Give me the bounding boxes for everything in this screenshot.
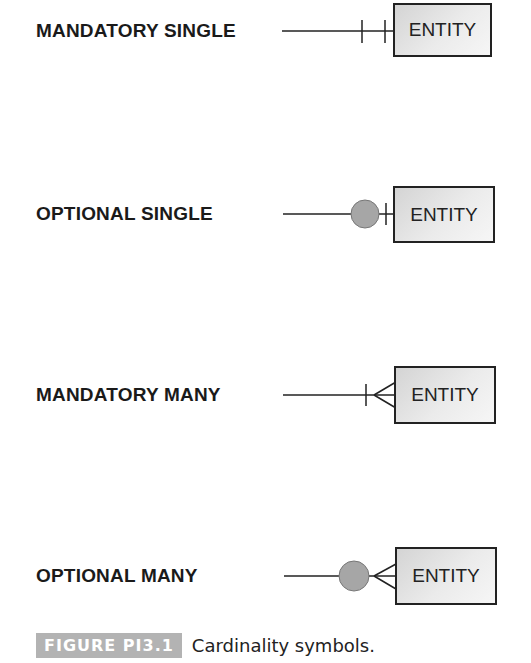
entity-box-optional-single: ENTITY bbox=[393, 186, 495, 243]
mandatory-many-icon bbox=[283, 382, 396, 408]
entity-box-optional-many: ENTITY bbox=[395, 547, 497, 605]
optional-single-icon bbox=[283, 200, 394, 228]
figure-caption: FIGURE PI3.1 Cardinality symbols. bbox=[36, 633, 375, 658]
label-optional-many: OPTIONAL MANY bbox=[36, 565, 198, 587]
mandatory-single-icon bbox=[282, 20, 394, 43]
entity-box-mandatory-single: ENTITY bbox=[393, 3, 492, 57]
figure-label-badge: FIGURE PI3.1 bbox=[36, 633, 182, 658]
figure-caption-text: Cardinality symbols. bbox=[192, 635, 375, 656]
label-optional-single: OPTIONAL SINGLE bbox=[36, 203, 213, 225]
label-mandatory-many: MANDATORY MANY bbox=[36, 384, 221, 406]
optional-many-icon bbox=[284, 561, 396, 591]
entity-box-mandatory-many: ENTITY bbox=[394, 366, 496, 424]
